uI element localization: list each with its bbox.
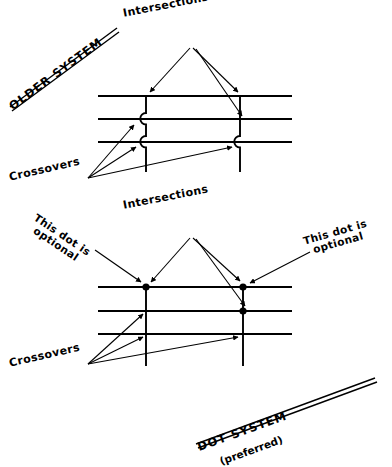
lower-leader-intersection-left <box>151 238 190 282</box>
junction-dot-right-top-optional <box>239 283 246 290</box>
lower-crossovers-leaders <box>88 314 238 364</box>
lower-leader-note-right <box>250 252 310 283</box>
lower-vertical-lines <box>146 287 243 366</box>
junction-dot-left-top <box>142 283 149 290</box>
lower-diagram-group <box>88 238 310 366</box>
upper-vline-right-with-hop <box>234 96 240 172</box>
lower-leader-crossover-1 <box>88 314 143 364</box>
upper-leader-intersection-right-b <box>196 49 242 116</box>
lower-leader-intersection-right-b <box>196 239 245 306</box>
lower-leader-note-left <box>95 250 141 282</box>
upper-intersections-leaders <box>150 48 242 116</box>
lower-intersections-leaders <box>151 238 245 306</box>
lower-junction-dots <box>142 283 246 314</box>
lower-leader-crossover-2 <box>88 337 143 364</box>
lower-horizontal-lines <box>98 287 292 334</box>
upper-vline-left-with-hops <box>140 96 146 172</box>
upper-diagram-group <box>88 48 292 178</box>
upper-crossovers-leaders <box>88 125 232 178</box>
upper-leader-crossover-3 <box>88 147 232 178</box>
lower-leader-crossover-3 <box>88 337 238 364</box>
upper-horizontal-lines <box>98 96 292 142</box>
upper-leader-intersection-left <box>150 48 190 92</box>
junction-dot-right-middle <box>239 307 246 314</box>
